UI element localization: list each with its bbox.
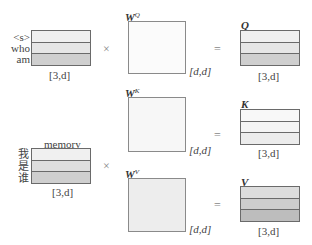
input-row-1 [32,31,90,43]
token-am: am [0,54,30,65]
q-matrix [240,30,300,66]
memory-row-1 [32,149,90,161]
v-row-1 [241,187,299,199]
times-operator-kv: × [103,160,110,172]
wq-shape: [d,d] [189,66,211,77]
token-shi: 是 [18,161,29,172]
input-row-3 [32,54,90,65]
equals-operator-v: = [214,199,221,211]
k-row-3 [241,133,299,144]
wv-shape: [d,d] [189,224,211,235]
v-matrix [240,186,300,222]
input-matrix [31,30,91,66]
input-row-2 [32,43,90,55]
memory-shape: [3,d] [52,187,73,198]
q-row-3 [241,54,299,65]
input-shape: [3,d] [49,70,70,81]
memory-row-2 [32,161,90,173]
q-row-1 [241,31,299,43]
wq-matrix [128,21,186,74]
memory-matrix [31,148,91,184]
wk-matrix [128,97,186,152]
memory-row-3 [32,172,90,183]
k-row-2 [241,122,299,134]
equals-operator-k: = [214,129,221,141]
q-row-2 [241,43,299,55]
k-shape: [3,d] [258,148,279,159]
wv-matrix [128,178,186,232]
v-shape: [3,d] [258,226,279,237]
k-row-1 [241,110,299,122]
q-shape: [3,d] [258,71,279,82]
k-matrix [240,109,300,145]
v-row-2 [241,199,299,211]
equals-operator-q: = [214,43,221,55]
v-row-3 [241,210,299,221]
token-wo: 我 [18,149,29,160]
wk-shape: [d,d] [189,145,211,156]
times-operator-q: × [103,43,110,55]
token-shui: 谁 [18,173,29,184]
